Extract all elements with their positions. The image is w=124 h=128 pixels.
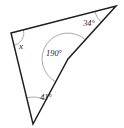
- angle-label-41: 41°: [40, 93, 52, 102]
- geometry-figure: x 34° 190° 41°: [0, 0, 124, 128]
- angle-label-190: 190°: [46, 49, 63, 58]
- angle-label-x: x: [18, 41, 23, 51]
- geometry-canvas: x 34° 190° 41°: [0, 0, 124, 128]
- angle-label-34: 34°: [82, 19, 95, 28]
